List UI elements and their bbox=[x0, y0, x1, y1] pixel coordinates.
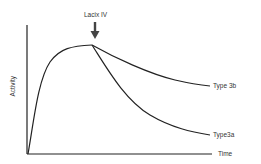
type-3b-curve bbox=[92, 45, 210, 86]
rise-curve bbox=[28, 45, 92, 154]
annotation-label: Lacix IV bbox=[84, 12, 107, 19]
series-label-type-3a: Type3a bbox=[213, 132, 234, 139]
type-3a-curve bbox=[92, 45, 210, 135]
x-axis-label: Time bbox=[218, 151, 232, 158]
arrow-down-icon bbox=[91, 22, 100, 39]
y-axis-label: Activity bbox=[10, 76, 17, 97]
series-label-type-3b: Type 3b bbox=[213, 83, 236, 90]
